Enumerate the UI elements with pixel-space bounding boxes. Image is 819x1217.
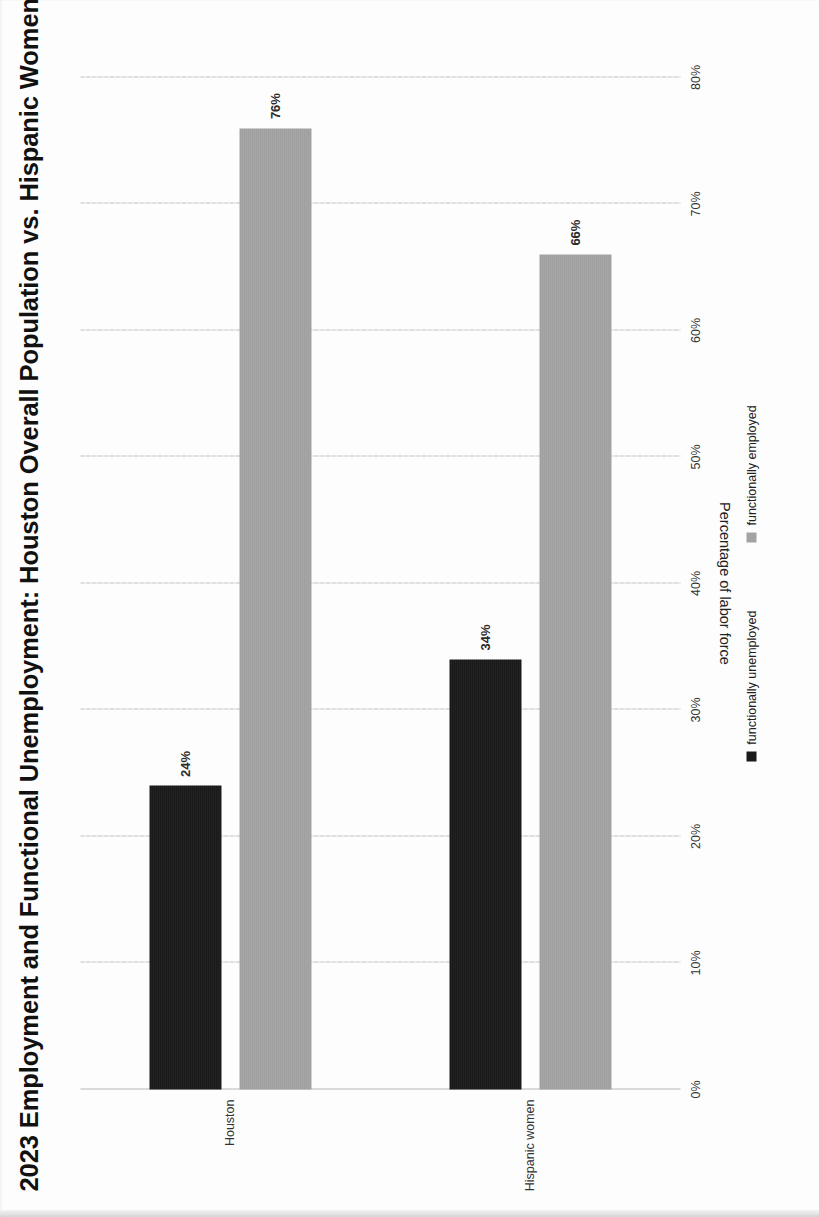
bar-unemployed xyxy=(149,785,221,1089)
bar-employed xyxy=(239,128,311,1089)
value-tick-label: 50% xyxy=(688,444,702,469)
bar-value-label: 66% xyxy=(568,219,583,245)
value-tick-label: 30% xyxy=(688,697,702,722)
square-swatch-icon xyxy=(746,532,756,542)
chart-title: 2023 Employment and Functional Unemploym… xyxy=(14,41,43,1191)
legend-label: functionally employed xyxy=(744,405,758,525)
value-tick-label: 80% xyxy=(688,64,702,89)
y-axis-title: Percentage of labor force xyxy=(716,77,732,1089)
legend-item[interactable]: functionally unemployed xyxy=(744,610,758,761)
plot-area: Houston24%76%Hispanic women34%66% xyxy=(80,77,680,1089)
bar-unemployed xyxy=(449,659,521,1089)
bar-value-label: 24% xyxy=(178,750,193,776)
value-tick-label: 0% xyxy=(688,1080,702,1098)
value-tick-label: 70% xyxy=(688,191,702,216)
value-tick-label: 10% xyxy=(688,950,702,975)
category-label: Hispanic women xyxy=(522,1099,536,1191)
legend-item[interactable]: functionally employed xyxy=(744,405,758,542)
bar-value-label: 76% xyxy=(268,93,283,119)
bar-value-label: 34% xyxy=(478,624,493,650)
value-tick-label: 20% xyxy=(688,823,702,848)
scanned-page: 2023 Employment and Functional Unemploym… xyxy=(0,0,819,1217)
legend-label: functionally unemployed xyxy=(744,610,758,744)
bar-group: 34%66% xyxy=(380,77,680,1089)
chart-legend: functionally unemployedfunctionally empl… xyxy=(744,77,758,1089)
value-tick-label: 60% xyxy=(688,317,702,342)
rotated-figure-container: 2023 Employment and Functional Unemploym… xyxy=(0,0,819,1217)
value-tick-label: 40% xyxy=(688,570,702,595)
bar-chart-figure: 2023 Employment and Functional Unemploym… xyxy=(0,0,819,1217)
category-label: Houston xyxy=(222,1099,236,1146)
bar-group: 24%76% xyxy=(80,77,380,1089)
square-swatch-icon xyxy=(746,751,756,761)
bar-employed xyxy=(539,254,611,1089)
